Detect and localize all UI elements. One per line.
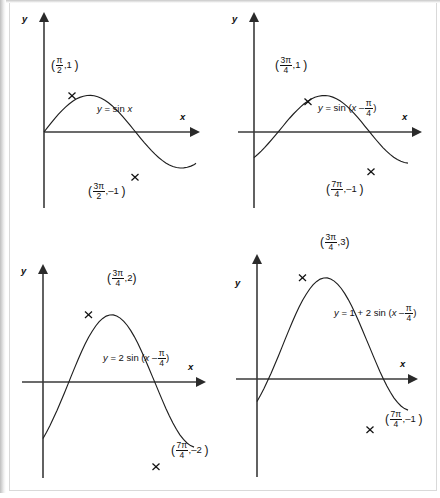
- paren-open: (: [51, 58, 55, 72]
- fraction-numerator: 3π: [280, 56, 293, 66]
- equation-function: sin: [127, 352, 139, 363]
- paren-close: ): [133, 271, 137, 285]
- y-value: –1: [108, 185, 119, 196]
- fraction-3pi-over-4: 3π4: [325, 233, 338, 253]
- paren-close: ): [303, 58, 307, 72]
- equation-argument: x: [352, 102, 357, 113]
- equation-coefficient: 2: [366, 307, 371, 318]
- y-value: –1: [405, 413, 416, 424]
- panel-4-maximum-label: (3π4,3): [320, 233, 350, 253]
- panel-4-y-axis-arrowhead: [252, 254, 262, 264]
- fraction-pi-over-4: π4: [365, 99, 373, 119]
- equation-lhs: y: [103, 352, 108, 363]
- equation-equals: =: [110, 352, 116, 363]
- fraction-pi-over-4: π4: [405, 304, 413, 324]
- panel-3-y-axis-label: y: [21, 266, 26, 276]
- panel-2-y-axis-label: y: [232, 14, 237, 24]
- panel-1-x-axis-label: x: [180, 112, 185, 122]
- paren-close: ): [359, 182, 363, 196]
- fraction-numerator: π: [365, 99, 373, 109]
- fraction-denominator: 4: [405, 314, 413, 324]
- fraction-denominator: 4: [390, 420, 403, 430]
- paren-open: (: [171, 443, 175, 457]
- equation-argument: x: [127, 103, 132, 114]
- equation-paren-close: ): [166, 352, 169, 363]
- panel-2-maximum-marker: [305, 99, 312, 106]
- fraction-denominator: 4: [325, 243, 338, 253]
- paren-open: (: [326, 182, 330, 196]
- equation-minus: –: [359, 102, 364, 113]
- fraction-3pi-over-2: 3π2: [93, 182, 106, 202]
- equation-vertical-shift: 1: [350, 307, 355, 318]
- paren-open: (: [385, 412, 389, 426]
- fraction-pi-over-2: π2: [56, 56, 64, 76]
- equation-minus: –: [152, 352, 157, 363]
- panel-3-maximum-label: (3π4,2): [107, 269, 137, 289]
- panel-1-y-axis-label: y: [22, 14, 27, 24]
- fraction-numerator: 3π: [93, 182, 106, 192]
- fraction-denominator: 4: [365, 109, 373, 119]
- paren-open: (: [107, 271, 111, 285]
- fraction-numerator: 7π: [176, 441, 189, 451]
- equation-lhs: y: [334, 307, 339, 318]
- panel-4-sine-curve: [257, 278, 408, 410]
- equation-paren-close: ): [373, 102, 376, 113]
- fraction-numerator: π: [56, 56, 64, 66]
- fraction-denominator: 2: [93, 192, 106, 202]
- equation-argument: x: [145, 352, 150, 363]
- paren-close: ): [346, 235, 350, 249]
- panel-2-maximum-label: (3π4,1 ): [275, 56, 307, 76]
- panel-1-x-axis-arrowhead: [190, 127, 200, 137]
- paren-open: (: [320, 235, 324, 249]
- fraction-denominator: 4: [331, 190, 344, 200]
- panel-4-minimum-label: (7π4,–1 ): [385, 410, 422, 430]
- equation-function: sin: [113, 103, 125, 114]
- panel-4-maximum-marker: [299, 275, 306, 282]
- fraction-numerator: 7π: [331, 180, 344, 190]
- fraction-denominator: 4: [280, 66, 293, 76]
- panel-4-y-axis-label: y: [235, 278, 240, 288]
- panel-2-x-axis-label: x: [402, 112, 407, 122]
- y-value: 1: [67, 59, 72, 70]
- panel-3-x-axis-label: x: [188, 362, 193, 372]
- panel-3-maximum-marker: [85, 312, 92, 319]
- equation-equals: =: [104, 103, 110, 114]
- equation-function: sin: [334, 102, 346, 113]
- fraction-7pi-over-4: 7π4: [176, 441, 189, 461]
- equation-function: sin: [374, 307, 386, 318]
- panel-2-minimum-marker: [368, 169, 375, 176]
- panel-4-equation-label: y = 1 + 2 sin (x –π4): [334, 304, 416, 324]
- panel-1-equation-label: y = sin x: [97, 104, 132, 114]
- equation-equals: =: [341, 307, 347, 318]
- fraction-numerator: 3π: [112, 269, 125, 279]
- equation-lhs: y: [97, 103, 102, 114]
- panel-3-minimum-marker: [153, 464, 160, 471]
- fraction-denominator: 4: [158, 359, 166, 369]
- y-value: 1: [295, 59, 300, 70]
- paren-open: (: [88, 184, 92, 198]
- fraction-7pi-over-4: 7π4: [390, 410, 403, 430]
- equation-equals: =: [325, 102, 331, 113]
- paren-close: ): [74, 58, 78, 72]
- panel-2-y-axis-arrowhead: [249, 12, 259, 22]
- panel-2-x-axis-arrowhead: [412, 127, 422, 137]
- paren-close: ): [204, 443, 208, 457]
- fraction-pi-over-4: π4: [158, 349, 166, 369]
- fraction-numerator: π: [405, 304, 413, 314]
- y-value: –1: [346, 183, 357, 194]
- equation-lhs: y: [318, 102, 323, 113]
- panel-3-equation-label: y = 2 sin (x –π4): [103, 349, 169, 369]
- fraction-numerator: 3π: [325, 233, 338, 243]
- paren-close: ): [121, 184, 125, 198]
- paren-open: (: [275, 58, 279, 72]
- panel-4-graph: [236, 254, 418, 477]
- panel-3-sine-curve: [43, 315, 194, 447]
- equation-paren-close: ): [413, 307, 416, 318]
- fraction-denominator: 4: [112, 279, 125, 289]
- equation-coefficient: 2: [119, 352, 124, 363]
- fraction-numerator: π: [158, 349, 166, 359]
- panel-4-minimum-marker: [367, 427, 374, 434]
- equation-argument: x: [392, 307, 397, 318]
- fraction-numerator: 7π: [390, 410, 403, 420]
- fraction-denominator: 4: [176, 451, 189, 461]
